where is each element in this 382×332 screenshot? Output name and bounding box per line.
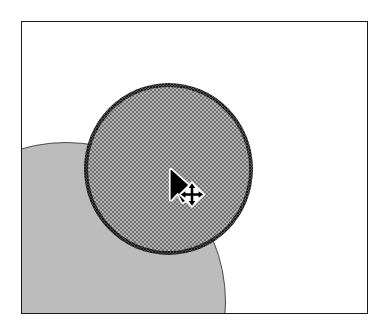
canvas-surface[interactable]: [22, 22, 367, 313]
canvas-frame[interactable]: [21, 21, 368, 314]
selection-outline: [84, 83, 253, 255]
page-background: [0, 0, 382, 332]
shape-selected-circle[interactable]: [88, 87, 249, 251]
